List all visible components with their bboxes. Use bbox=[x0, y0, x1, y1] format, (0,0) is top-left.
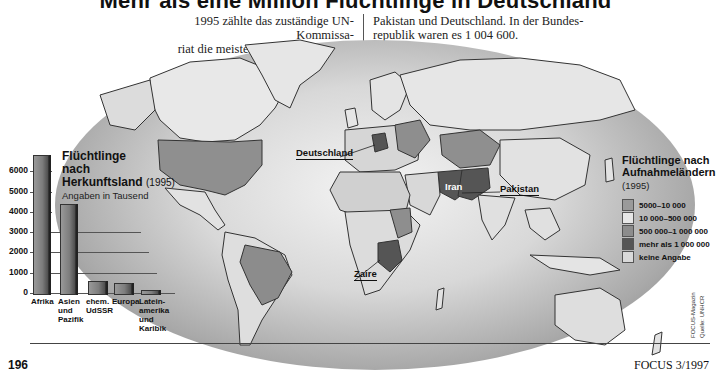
bar-asien-und-pazifik bbox=[60, 204, 76, 295]
region-india bbox=[478, 195, 515, 240]
magazine-issue: FOCUS 3/1997 bbox=[634, 358, 709, 373]
legend-swatch bbox=[622, 251, 634, 263]
y-tick-label: 4000 bbox=[4, 206, 28, 216]
chart-title-line-3: Herkunftsland bbox=[62, 175, 143, 189]
bar-europa bbox=[114, 283, 132, 295]
legend-swatch bbox=[622, 212, 634, 224]
y-tick-label: 5000 bbox=[4, 186, 28, 196]
legend-item: 5000–10 000 bbox=[622, 199, 686, 211]
bar-ehem-udssr bbox=[88, 281, 106, 295]
region-uk bbox=[345, 108, 358, 128]
region-alaska bbox=[100, 80, 155, 130]
x-category-label: ehem.UdSSR bbox=[86, 297, 113, 315]
y-tick-label: 3000 bbox=[4, 226, 28, 236]
y-tick-label: 2000 bbox=[4, 246, 28, 256]
footer-rule bbox=[30, 343, 710, 344]
legend-title-line-2: Aufnahmeländern bbox=[622, 166, 716, 178]
y-tick-label: 1000 bbox=[4, 267, 28, 277]
x-category-label: Latein-amerikaundKaribik bbox=[139, 297, 169, 333]
gridline bbox=[30, 273, 157, 274]
region-madagascar bbox=[436, 288, 444, 310]
credit-source: Quelle: UNHCR bbox=[699, 296, 705, 338]
y-tick-label: 0 bbox=[4, 287, 28, 297]
legend-swatch bbox=[622, 238, 634, 250]
region-germany bbox=[372, 133, 388, 152]
map-label-deutschland: Deutschland bbox=[296, 147, 353, 160]
region-russia bbox=[400, 58, 635, 130]
legend-swatch bbox=[622, 199, 634, 211]
legend-title: Flüchtlinge nach Aufnahmeländern bbox=[622, 154, 716, 178]
map-label-pakistan: Pakistan bbox=[500, 183, 539, 196]
map-label-zaire: Zaire bbox=[354, 268, 377, 281]
legend-label: keine Angabe bbox=[639, 253, 691, 262]
legend-year: (1995) bbox=[622, 180, 649, 191]
region-se-asia bbox=[525, 208, 560, 240]
region-central-asia bbox=[440, 130, 500, 168]
region-australia bbox=[555, 288, 625, 345]
x-category-label: AsienundPazifik bbox=[58, 297, 83, 324]
legend-title-line-1: Flüchtlinge nach bbox=[622, 154, 716, 166]
legend-label: 10 000–500 000 bbox=[639, 214, 697, 223]
region-japan bbox=[605, 158, 614, 182]
map-label-iran: Iran bbox=[445, 181, 462, 193]
legend-item: mehr als 1 000 000 bbox=[622, 238, 710, 250]
legend-item: 10 000–500 000 bbox=[622, 212, 697, 224]
region-mexico bbox=[165, 188, 225, 230]
legend-item: keine Angabe bbox=[622, 251, 691, 263]
bar-afrika bbox=[33, 155, 49, 295]
region-indonesia bbox=[530, 255, 620, 275]
legend-label: 500 000–1 000 000 bbox=[639, 227, 708, 236]
page-number: 196 bbox=[8, 358, 28, 372]
x-category-label: Afrika bbox=[31, 297, 54, 306]
chart-subtitle: Angaben in Tausend bbox=[62, 190, 148, 201]
credit-magazine: FOCUS-Magazin bbox=[690, 292, 696, 338]
bar-lateinamerika-und-karibik bbox=[141, 290, 159, 295]
y-tick-label: 6000 bbox=[4, 165, 28, 175]
x-category-label: Europa bbox=[112, 297, 140, 306]
legend-label: mehr als 1 000 000 bbox=[639, 240, 710, 249]
legend-label: 5000–10 000 bbox=[639, 201, 686, 210]
legend-item: 500 000–1 000 000 bbox=[622, 225, 708, 237]
chart-year: (1995) bbox=[146, 177, 175, 188]
chart-title: Flüchtlinge nach Herkunftsland (1995) bbox=[62, 150, 175, 189]
legend-swatch bbox=[622, 225, 634, 237]
